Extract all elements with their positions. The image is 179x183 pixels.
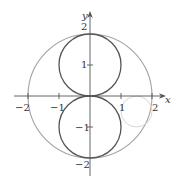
y-tick-label: −2	[75, 159, 90, 170]
y-tick-label: 2	[81, 21, 87, 32]
y-tick-label: 1	[81, 59, 87, 70]
x-tick-label: 1	[119, 102, 125, 113]
chart-canvas: −2 −1 1 2 2 1 −1 −2 x y	[0, 0, 179, 183]
x-tick-label: 2	[152, 102, 158, 113]
x-axis-label: x	[165, 94, 171, 105]
x-tick-label: −2	[15, 102, 30, 113]
rolling-circle	[121, 96, 152, 127]
y-tick-label: −1	[75, 122, 90, 133]
x-tick-label: −1	[50, 102, 65, 113]
y-axis-label: y	[81, 10, 88, 21]
